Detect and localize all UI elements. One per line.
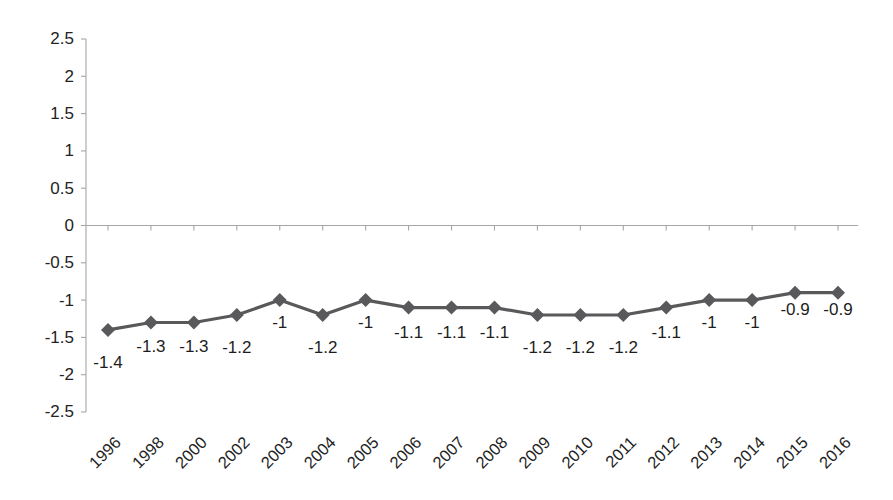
category-axis <box>108 226 838 231</box>
data-point-label: -1 <box>358 313 373 332</box>
x-tick-label: 2012 <box>644 433 683 472</box>
data-point-label: -1 <box>745 313 760 332</box>
value-axis: 2.521.510.50-0.5-1-1.5-2-2.5 <box>45 29 86 421</box>
data-point-label: -1.2 <box>308 338 337 357</box>
x-tick-label: 2004 <box>300 433 339 472</box>
data-series-line <box>108 293 838 330</box>
y-tick-label: -1 <box>59 291 74 310</box>
x-tick-label: 2000 <box>171 433 210 472</box>
y-tick-label: -0.5 <box>45 253 74 272</box>
data-marker <box>101 323 115 337</box>
x-tick-label: 2011 <box>602 433 640 471</box>
data-point-label: -1.2 <box>222 338 251 357</box>
data-point-label: -1.1 <box>652 323 681 342</box>
data-marker <box>273 293 287 307</box>
data-marker <box>659 301 673 315</box>
x-tick-label: 2005 <box>343 433 382 472</box>
x-tick-label: 2016 <box>815 433 854 472</box>
x-tick-label: 2006 <box>386 433 425 472</box>
data-point-label: -1.3 <box>179 337 208 356</box>
data-point-label: -0.9 <box>823 300 852 319</box>
data-point-label: -1.1 <box>437 323 466 342</box>
y-tick-label: 2 <box>65 67 74 86</box>
line-chart: 2.521.510.50-0.5-1-1.5-2-2.5 -1.4-1.3-1.… <box>0 0 893 500</box>
data-marker <box>788 286 802 300</box>
y-tick-label: 0.5 <box>50 179 74 198</box>
x-tick-label: 2007 <box>429 433 468 472</box>
data-point-label: -0.9 <box>780 300 809 319</box>
data-marker <box>573 308 587 322</box>
data-point-labels: -1.4-1.3-1.3-1.2-1-1.2-1-1.1-1.1-1.1-1.2… <box>93 300 852 372</box>
data-marker <box>831 286 845 300</box>
y-tick-label: 0 <box>65 216 74 235</box>
data-markers <box>101 286 845 337</box>
x-tick-label: 2009 <box>515 433 554 472</box>
data-marker <box>702 293 716 307</box>
data-marker <box>487 301 501 315</box>
data-point-label: -1.2 <box>609 338 638 357</box>
data-point-label: -1.4 <box>93 353 122 372</box>
data-marker <box>530 308 544 322</box>
data-marker <box>359 293 373 307</box>
x-tick-label: 1996 <box>85 433 124 472</box>
data-point-label: -1.3 <box>136 337 165 356</box>
data-marker <box>187 315 201 329</box>
y-tick-label: 1.5 <box>50 104 74 123</box>
data-marker <box>745 293 759 307</box>
data-marker <box>402 301 416 315</box>
x-tick-label: 2002 <box>214 433 253 472</box>
data-point-label: -1.1 <box>480 323 509 342</box>
data-point-label: -1 <box>272 313 287 332</box>
data-marker <box>230 308 244 322</box>
data-point-label: -1.2 <box>523 338 552 357</box>
data-point-label: -1 <box>702 313 717 332</box>
category-tick-labels: 1996199820002002200320042005200620072008… <box>85 433 854 472</box>
y-tick-label: -2.5 <box>45 402 74 421</box>
chart-canvas: 2.521.510.50-0.5-1-1.5-2-2.5 -1.4-1.3-1.… <box>0 0 893 500</box>
data-marker <box>144 315 158 329</box>
data-point-label: -1.1 <box>394 323 423 342</box>
y-tick-label: -1.5 <box>45 328 74 347</box>
x-tick-label: 2003 <box>257 433 296 472</box>
x-tick-label: 2008 <box>472 433 511 472</box>
data-marker <box>316 308 330 322</box>
x-tick-label: 2013 <box>687 433 726 472</box>
data-point-label: -1.2 <box>566 338 595 357</box>
y-tick-label: -2 <box>59 365 74 384</box>
y-tick-label: 2.5 <box>50 29 74 48</box>
x-tick-label: 1998 <box>128 433 167 472</box>
x-tick-label: 2014 <box>730 433 769 472</box>
data-marker <box>445 301 459 315</box>
y-tick-label: 1 <box>65 141 74 160</box>
x-tick-label: 2015 <box>772 433 811 472</box>
data-marker <box>616 308 630 322</box>
x-tick-label: 2010 <box>558 433 597 472</box>
series-path <box>108 293 838 330</box>
